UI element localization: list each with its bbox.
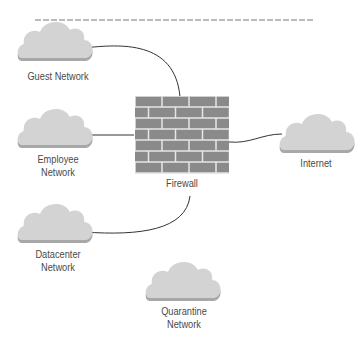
cloud-icon-employee	[18, 109, 93, 148]
brick-wall-icon	[135, 96, 229, 174]
link-firewall-internet	[229, 134, 282, 142]
cloud-icon-guest	[18, 22, 93, 61]
label-internet: Internet	[272, 157, 360, 170]
label-employee-network: Employee Network	[14, 153, 102, 179]
label-datacenter-network: Datacenter Network	[14, 248, 102, 274]
cloud-icon-quarantine	[146, 262, 221, 301]
label-guest-network: Guest Network	[14, 70, 102, 83]
cloud-icon-datacenter	[18, 204, 93, 243]
cloud-icon-internet	[280, 114, 355, 153]
link-datacenter-firewall	[84, 196, 190, 233]
label-firewall: Firewall	[138, 177, 226, 190]
label-quarantine-network: Quarantine Network	[140, 305, 228, 331]
